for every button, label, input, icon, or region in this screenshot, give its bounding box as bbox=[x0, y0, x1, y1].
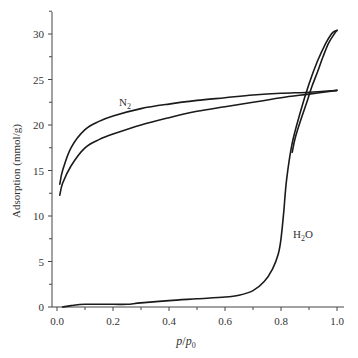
y-axis-label: Adsorption (mmol/g) bbox=[10, 124, 23, 218]
y-tick-label: 10 bbox=[33, 210, 45, 222]
x-tick-label: 0.6 bbox=[218, 315, 232, 327]
x-tick-label: 0.2 bbox=[106, 315, 120, 327]
y-tick-label: 20 bbox=[33, 119, 45, 131]
x-tick-label: 0.0 bbox=[50, 315, 64, 327]
x-axis-label: p/p0 bbox=[175, 334, 195, 350]
axes bbox=[48, 11, 344, 311]
adsorption-isotherm-chart: 0.00.20.40.60.81.0051015202530 N2 H2O Ad… bbox=[0, 0, 358, 358]
tick-labels: 0.00.20.40.60.81.0051015202530 bbox=[33, 28, 344, 327]
n2-label: N2 bbox=[119, 96, 131, 111]
x-tick-label: 1.0 bbox=[330, 315, 344, 327]
x-tick-label: 0.4 bbox=[162, 315, 176, 327]
series-n2-adsorption-lower bbox=[60, 90, 337, 195]
curves bbox=[60, 30, 337, 307]
x-tick-label: 0.8 bbox=[274, 315, 288, 327]
h2o-label: H2O bbox=[293, 228, 313, 243]
y-tick-label: 0 bbox=[39, 301, 45, 313]
series-h2o-adsorption bbox=[63, 30, 337, 307]
y-tick-label: 5 bbox=[39, 256, 45, 268]
y-tick-label: 30 bbox=[33, 28, 45, 40]
y-tick-label: 15 bbox=[33, 165, 45, 177]
y-tick-label: 25 bbox=[33, 74, 45, 86]
